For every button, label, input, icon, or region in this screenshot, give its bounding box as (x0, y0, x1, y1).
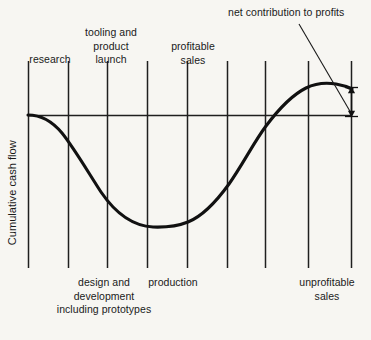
y-axis-label: Cumulative cash flow (6, 131, 20, 255)
annotation-profitable-sales: profitable sales (162, 40, 224, 67)
cash-flow-chart-figure: Cumulative cash flow research tooling an… (0, 0, 371, 340)
annotation-unprofitable-sales: unprofitable sales (288, 276, 366, 303)
cumulative-cash-flow-curve (28, 83, 352, 227)
annotation-research: research (22, 53, 78, 67)
vertical-gridlines (29, 61, 352, 268)
net-contribution-leader-line (299, 24, 351, 113)
annotation-production: production (140, 276, 206, 290)
net-contribution-double-arrow (345, 87, 358, 118)
annotation-tooling-and-product-launch: tooling and product launch (76, 26, 146, 67)
annotation-net-contribution-to-profits: net contribution to profits (228, 6, 370, 20)
